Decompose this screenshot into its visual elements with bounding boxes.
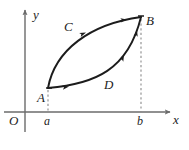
- tick-label-b: b: [137, 115, 143, 127]
- tick-label-a: a: [44, 115, 50, 127]
- curve-D-lower: [48, 17, 141, 88]
- origin-label: O: [9, 114, 18, 127]
- x-axis-label: x: [173, 113, 179, 126]
- curve-label-D: D: [104, 78, 113, 91]
- point-label-A: A: [37, 91, 45, 104]
- math-figure: y x O a b A B C D: [0, 0, 189, 150]
- y-axis-label: y: [33, 8, 39, 21]
- point-label-B: B: [146, 14, 154, 27]
- curve-label-C: C: [64, 20, 73, 33]
- figure-canvas: [0, 0, 189, 150]
